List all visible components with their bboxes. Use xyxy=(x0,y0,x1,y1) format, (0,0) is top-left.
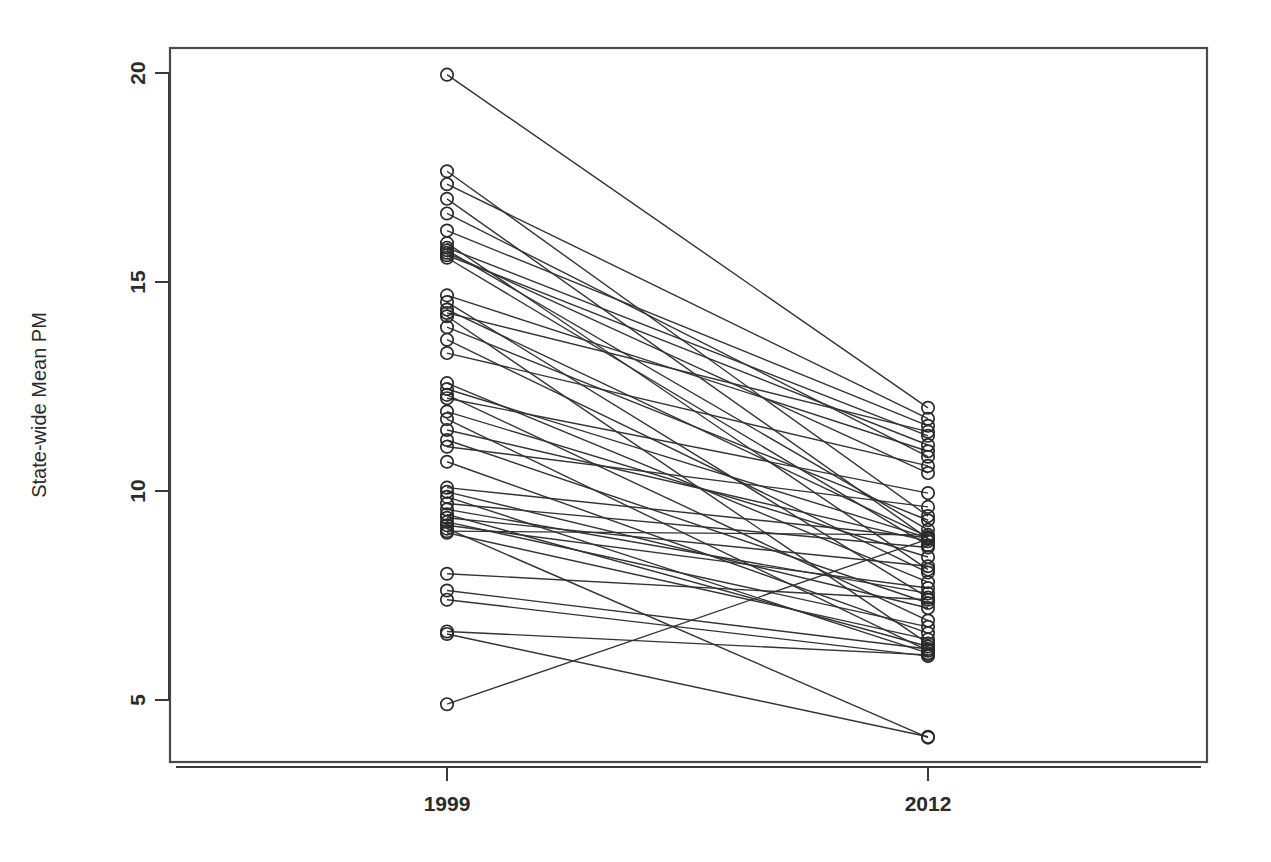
series-line xyxy=(447,634,928,737)
series-line xyxy=(447,295,928,451)
chart-container: 5101520 19992012 State-wide Mean PM xyxy=(0,0,1271,862)
x-axis-tick-label: 1999 xyxy=(424,792,471,815)
series-line xyxy=(447,529,928,738)
data-point-marker xyxy=(441,333,453,345)
x-axis: 19992012 xyxy=(176,767,1201,815)
series-line xyxy=(447,302,928,598)
series-line xyxy=(447,398,928,493)
y-axis-tick-label: 20 xyxy=(126,61,149,84)
series-line xyxy=(447,327,928,520)
series-line xyxy=(447,253,928,473)
x-axis-tick-label: 2012 xyxy=(905,792,952,815)
series-line xyxy=(447,492,928,608)
y-axis-tick-label: 5 xyxy=(126,694,149,706)
series-line xyxy=(447,248,928,436)
series-line xyxy=(447,539,928,704)
y-axis-title: State-wide Mean PM xyxy=(28,312,50,498)
series-line xyxy=(447,631,928,654)
series-line xyxy=(447,316,928,643)
series-line xyxy=(447,231,928,426)
series-line xyxy=(447,75,928,408)
series-line xyxy=(447,590,928,649)
slope-chart: 5101520 19992012 State-wide Mean PM xyxy=(0,0,1271,862)
series-line xyxy=(447,313,928,432)
y-axis-tick-label: 15 xyxy=(126,270,149,294)
series-line xyxy=(447,213,928,456)
series-line xyxy=(447,389,928,538)
plot-border xyxy=(170,48,1207,762)
series-lines xyxy=(447,75,928,738)
series-line xyxy=(447,255,928,445)
series-line xyxy=(447,353,928,466)
y-axis: 5101520 xyxy=(126,61,169,706)
y-axis-tick-label: 10 xyxy=(126,479,149,502)
plot-frame xyxy=(170,48,1207,762)
series-line xyxy=(447,488,928,538)
